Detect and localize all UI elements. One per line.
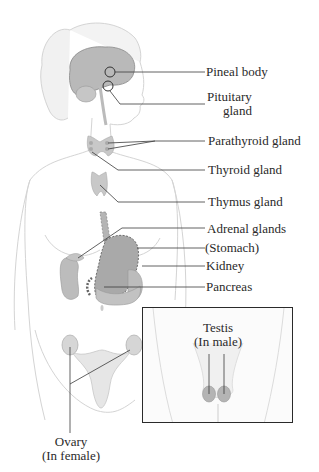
thymus-gland-label: Thymus gland	[208, 195, 283, 209]
thyroid-gland	[87, 136, 114, 156]
stomach-label: (Stomach)	[205, 241, 259, 255]
adrenal-glands-label: Adrenal glands	[207, 222, 286, 236]
testis-label-line1: Testis	[188, 321, 248, 335]
testis-label-line2: (In male)	[188, 335, 248, 349]
pituitary-gland-label-line1: Pituitary	[207, 90, 252, 104]
brain	[70, 47, 135, 125]
testis-label: Testis (In male)	[188, 321, 248, 349]
ovary-label: Ovary (In female)	[30, 435, 112, 463]
ovary-right	[126, 335, 142, 355]
thyroid-gland-label: Thyroid gland	[208, 163, 282, 177]
pineal-body-label: Pineal body	[206, 65, 268, 79]
male-inset-box: Testis (In male)	[142, 307, 293, 423]
endocrine-diagram: Testis (In male) Pineal body Pituitary g…	[0, 0, 319, 472]
pancreas-label: Pancreas	[206, 280, 252, 294]
ovary-label-line2: (In female)	[30, 449, 112, 463]
pituitary-gland-label-line2: gland	[223, 104, 252, 118]
kidney-left	[60, 258, 78, 300]
kidney-label: Kidney	[206, 259, 244, 273]
thymus-gland	[91, 172, 107, 196]
parathyroid-gland-label: Parathyroid gland	[208, 134, 301, 148]
ovary-label-line1: Ovary	[30, 435, 112, 449]
